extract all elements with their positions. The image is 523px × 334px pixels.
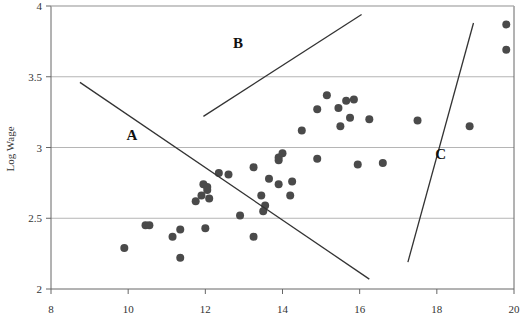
data-point	[205, 194, 213, 202]
data-point	[169, 233, 177, 241]
data-point	[313, 155, 321, 163]
y-tick-label: 2.5	[28, 212, 42, 224]
annotation-label-c: C	[435, 146, 446, 162]
data-point	[250, 233, 258, 241]
data-point	[265, 175, 273, 183]
x-tick-label: 18	[431, 303, 443, 315]
data-point	[350, 95, 358, 103]
x-tick-label: 8	[48, 303, 54, 315]
data-point	[250, 163, 258, 171]
data-point	[176, 226, 184, 234]
annotation-line-b	[203, 14, 361, 116]
data-point	[288, 177, 296, 185]
y-tick-label: 3.5	[28, 71, 42, 83]
data-point	[334, 104, 342, 112]
y-axis-title: Log Wage	[4, 126, 16, 171]
data-point	[466, 122, 474, 130]
data-point	[414, 117, 422, 125]
data-point	[342, 97, 350, 105]
data-point	[145, 221, 153, 229]
data-point	[313, 105, 321, 113]
y-tick-label: 3	[37, 142, 43, 154]
data-points	[120, 20, 510, 261]
y-tick-label: 4	[37, 0, 43, 12]
x-tick-label: 14	[277, 303, 289, 315]
data-point	[224, 170, 232, 178]
data-point	[176, 254, 184, 262]
data-point	[286, 192, 294, 200]
data-point	[197, 192, 205, 200]
annotation-lines: ABC	[80, 14, 474, 279]
data-point	[203, 186, 211, 194]
data-point	[379, 159, 387, 167]
data-point	[215, 169, 223, 177]
data-point	[365, 115, 373, 123]
data-point	[275, 180, 283, 188]
data-point	[502, 20, 510, 28]
x-axis: 8101214161820	[48, 289, 520, 315]
y-tick-label: 2	[37, 283, 43, 295]
x-tick-label: 10	[123, 303, 135, 315]
data-point	[257, 192, 265, 200]
data-point	[336, 122, 344, 130]
data-point	[201, 224, 209, 232]
data-point	[192, 197, 200, 205]
x-tick-label: 12	[200, 303, 211, 315]
data-point	[354, 160, 362, 168]
gridlines	[51, 6, 514, 218]
scatter-chart: 22.533.54 8101214161820 ABC Log Wage	[0, 0, 523, 334]
y-axis: 22.533.54	[28, 0, 51, 295]
data-point	[120, 244, 128, 252]
data-point	[279, 149, 287, 157]
annotation-line-c	[408, 23, 474, 262]
x-tick-label: 16	[354, 303, 366, 315]
data-point	[236, 211, 244, 219]
data-point	[346, 114, 354, 122]
data-point	[323, 91, 331, 99]
annotation-label-a: A	[127, 127, 138, 143]
x-tick-label: 20	[509, 303, 521, 315]
data-point	[502, 46, 510, 54]
data-point	[275, 156, 283, 164]
annotation-label-b: B	[233, 35, 243, 51]
data-point	[298, 127, 306, 135]
